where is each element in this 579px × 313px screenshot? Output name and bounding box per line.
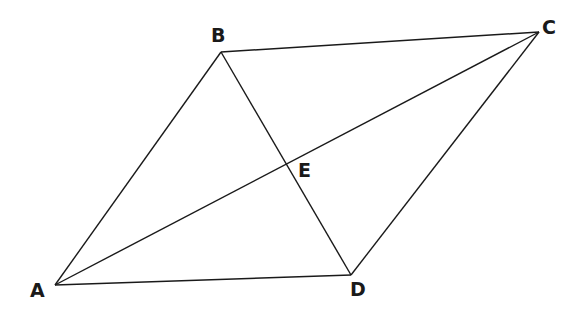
segments-group xyxy=(55,32,539,285)
label-a: A xyxy=(30,279,45,301)
diagram-canvas: A B C D E xyxy=(0,0,579,313)
label-e: E xyxy=(298,159,311,181)
label-b: B xyxy=(211,24,225,46)
side-bc xyxy=(221,32,539,52)
diagonal-bd xyxy=(221,52,351,275)
label-d: D xyxy=(350,278,366,300)
label-c: C xyxy=(542,16,556,38)
side-ab xyxy=(55,52,221,285)
side-cd xyxy=(351,32,539,275)
diagonal-ac xyxy=(55,32,539,285)
parallelogram-diagram: A B C D E xyxy=(0,0,579,313)
side-da xyxy=(55,275,351,285)
